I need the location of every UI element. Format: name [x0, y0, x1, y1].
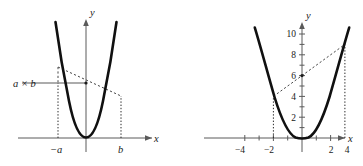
- right-ytick-label-10: 10: [287, 29, 297, 39]
- math-figure-two-parabolas: a × b −a b y x: [0, 0, 363, 166]
- right-xtick-label-neg4: −4: [235, 145, 245, 155]
- left-y-axis-label: y: [89, 7, 95, 18]
- right-x-axis-label: x: [347, 133, 353, 144]
- right-ytick-label-6: 6: [291, 71, 296, 81]
- left-xtick-label-neg-a: −a: [50, 144, 62, 155]
- left-product-label: a × b: [13, 78, 36, 89]
- right-y-intercept-dot: [300, 74, 303, 77]
- left-y-intercept-dot: [84, 81, 87, 84]
- right-xtick-label-2: 2: [329, 145, 334, 155]
- right-xtick-label-neg2: −2: [264, 145, 274, 155]
- right-xtick-label-4: 4: [345, 145, 350, 155]
- left-xtick-label-b: b: [118, 144, 123, 155]
- right-ytick-label-4: 4: [291, 92, 296, 102]
- right-ytick-label-8: 8: [291, 50, 296, 60]
- left-x-axis-label: x: [153, 133, 159, 144]
- right-y-axis-label: y: [305, 10, 311, 21]
- right-ytick-label-2: 2: [291, 113, 296, 123]
